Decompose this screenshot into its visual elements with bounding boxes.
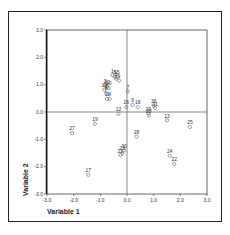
y-tick-label: -1.0	[34, 136, 43, 142]
point-label: 13	[164, 113, 170, 119]
y-tick-label: -2.0	[34, 163, 43, 169]
point-label: 11	[104, 91, 109, 97]
y-tick-label: -3.0	[34, 191, 43, 197]
x-tick-label: 1.0	[150, 197, 157, 203]
x-tick-label: -2.0	[69, 197, 78, 203]
point-label: 25	[187, 119, 193, 125]
point-label: 19	[92, 116, 98, 122]
y-tick-label: 2.0	[36, 54, 43, 60]
point-label: 21	[118, 148, 124, 154]
x-tick-label: 0.0	[124, 197, 131, 203]
point-label: 7	[126, 84, 129, 90]
point-label: 9	[118, 73, 121, 79]
point-label: 24	[167, 148, 173, 154]
x-tick-label: -1.0	[96, 197, 105, 203]
point-label: 28	[134, 129, 140, 135]
x-tick-label: 3.0	[204, 197, 211, 203]
point-label: 31	[152, 101, 158, 107]
point-label: 6	[131, 97, 134, 103]
point-label: 29	[146, 106, 152, 112]
x-axis-label: Variable 1	[47, 208, 80, 215]
y-tick-label: 1.0	[36, 81, 43, 87]
plot-area	[47, 30, 208, 194]
point-label: 12	[116, 106, 122, 112]
point-label: 26	[123, 99, 129, 105]
point-label: 27	[69, 125, 75, 131]
x-tick-label: -3.0	[43, 197, 52, 203]
point-label: 22	[171, 156, 177, 162]
y-axis-label: Variable 2	[22, 163, 29, 196]
x-tick-label: 2.0	[177, 197, 184, 203]
y-tick-label: 3.0	[36, 27, 43, 33]
y-tick-label: 0.0	[36, 109, 43, 115]
point-label: 17	[86, 167, 92, 173]
scatter-plot: -3.0-2.0-1.00.01.02.03.03.02.01.00.0-1.0…	[0, 0, 230, 235]
point-label: 18	[135, 99, 141, 105]
